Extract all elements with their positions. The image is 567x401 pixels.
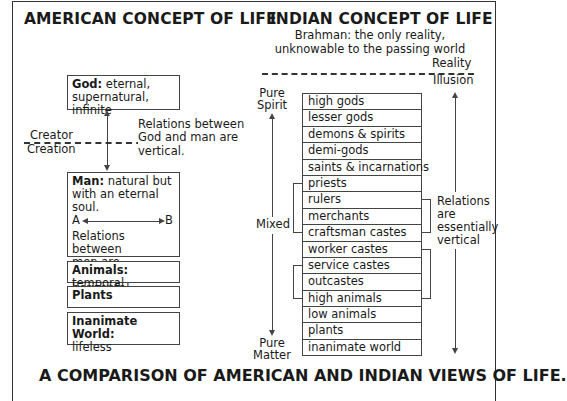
point-b-label: B [165, 214, 173, 227]
vertical-note-line-3: vertical. [138, 145, 185, 158]
american-heading: AMERICAN CONCEPT OF LIFE [24, 10, 277, 28]
animals-label: Animals: [72, 263, 128, 277]
horizontal-arrow-line [86, 221, 160, 222]
spirit-axis-line [272, 118, 273, 217]
plants-label: Plants [72, 288, 113, 302]
point-a-label: A [72, 214, 80, 227]
left-bracket-upper [293, 183, 302, 233]
inanimate-label: Inanimate World: [72, 314, 137, 341]
ladder-rung: outcastes [303, 274, 421, 290]
matter-axis-line [272, 234, 273, 331]
right-note-line-4: vertical [437, 234, 480, 247]
ladder-rung: rulers [303, 192, 421, 208]
god-man-arrow-line [107, 115, 108, 166]
inanimate-world-box: Inanimate World: lifeless [67, 312, 180, 345]
ladder-rung: merchants [303, 209, 421, 225]
brahman-line-2: unknowable to the passing world [270, 43, 470, 56]
man-label: Man: [72, 174, 104, 188]
god-text: eternal, [102, 77, 150, 91]
left-bracket-lower [293, 265, 302, 299]
right-bracket-upper [422, 199, 431, 233]
ladder-rung: worker castes [303, 242, 421, 258]
man-text-3: Relations between [72, 229, 125, 256]
man-box: Man: natural but with an eternal soul. A… [67, 172, 180, 257]
right-axis-line-upper [455, 97, 456, 192]
ladder-rung: craftsman castes [303, 225, 421, 241]
indian-heading: INDIAN CONCEPT OF LIFE [270, 10, 493, 28]
god-box: God: eternal, supernatural, infinite [67, 75, 180, 110]
horizontal-relation-arrow: A B [72, 214, 172, 227]
ladder-rung: high animals [303, 291, 421, 307]
ladder-rung: priests [303, 176, 421, 192]
ladder-rung: inanimate world [303, 340, 421, 356]
creation-label: Creation [27, 143, 76, 156]
arrow-up-icon [104, 110, 110, 116]
reality-label: Reality [432, 57, 471, 70]
creator-label: Creator [30, 129, 73, 142]
animals-box: Animals: temporal [67, 261, 180, 283]
illusion-label: Illusion [433, 74, 474, 87]
ladder-rung: saints & incarnations [303, 160, 421, 176]
ladder-rung: demons & spirits [303, 127, 421, 143]
man-text: natural but [104, 174, 172, 188]
plants-box: Plants [67, 286, 180, 308]
man-text-2: with an eternal soul. [72, 187, 159, 214]
ladder-rung: low animals [303, 307, 421, 323]
indian-hierarchy-ladder: high gods lesser gods demons & spirits d… [302, 93, 422, 356]
pure-spirit-line-2: Spirit [255, 99, 289, 112]
arrow-down-icon [452, 348, 458, 354]
diagram-caption: A COMPARISON OF AMERICAN AND INDIAN VIEW… [39, 366, 567, 385]
ladder-rung: plants [303, 323, 421, 339]
ladder-rung: high gods [303, 94, 421, 110]
right-axis-line-lower [455, 249, 456, 349]
vertical-note-line-2: God and man are [138, 131, 238, 144]
ladder-rung: demi-gods [303, 143, 421, 159]
inanimate-text: lifeless [72, 340, 112, 354]
ladder-rung: service castes [303, 258, 421, 274]
pure-matter-line-2: Matter [250, 349, 294, 362]
brahman-line-1: Brahman: the only reality, [270, 29, 470, 42]
god-label: God: [72, 77, 102, 91]
ladder-rung: lesser gods [303, 110, 421, 126]
arrow-down-icon [104, 165, 110, 171]
mixed-label: Mixed [256, 218, 290, 231]
right-bracket-lower [422, 249, 431, 299]
